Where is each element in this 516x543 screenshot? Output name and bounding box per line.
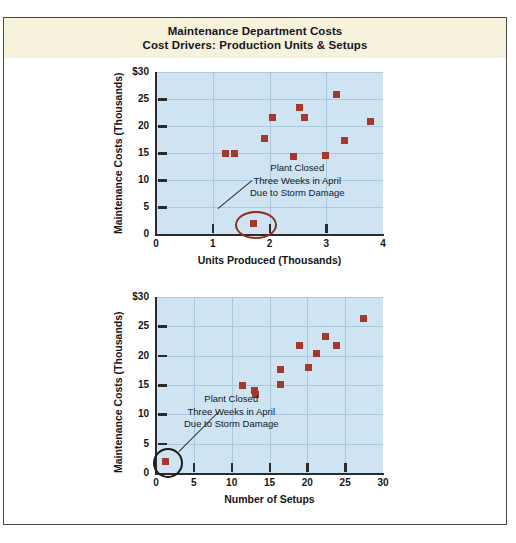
x-axis-tick [212, 224, 215, 233]
y-axis-tick [158, 206, 167, 209]
y-axis-tick [158, 355, 167, 358]
data-point [313, 350, 320, 357]
x-axis-tick-label: 1 [200, 238, 226, 249]
data-point [305, 364, 312, 371]
gridline-vertical [307, 297, 308, 473]
x-axis-tick-label: 20 [294, 477, 320, 488]
gridline-vertical [194, 297, 195, 473]
figure-frame: Maintenance Department Costs Cost Driver… [3, 17, 507, 525]
x-axis-tick-label: 5 [181, 477, 207, 488]
y-axis-tick [158, 179, 167, 182]
data-point [360, 315, 367, 322]
y-axis-tick [158, 152, 167, 155]
x-axis-tick-label: 0 [143, 477, 169, 488]
y-axis-title: Maintenance Costs (Thousands) [112, 72, 124, 234]
x-axis-tick [306, 463, 309, 472]
title-band: Maintenance Department Costs Cost Driver… [4, 18, 506, 58]
x-axis-line [155, 473, 384, 475]
gridline-vertical [345, 297, 346, 473]
y-axis-tick-label: $30 [115, 291, 149, 302]
plot-area [156, 72, 383, 234]
data-point [322, 333, 329, 340]
x-axis-tick-label: 0 [143, 238, 169, 249]
y-axis-tick [158, 125, 167, 128]
y-axis-tick [158, 325, 167, 328]
y-axis-line [155, 72, 157, 235]
y-axis-tick [158, 384, 167, 387]
gridline-vertical [270, 297, 271, 473]
data-point [290, 153, 297, 160]
chart-units-produced: 0510152025$3001234Maintenance Costs (Tho… [4, 58, 508, 273]
x-axis-tick [231, 463, 234, 472]
x-axis-tick-label: 30 [370, 477, 396, 488]
outlier-highlight-ellipse [235, 211, 277, 239]
outlier-highlight-ellipse [153, 448, 183, 478]
annotation-text: Plant ClosedThree Weeks in AprilDue to S… [184, 393, 279, 431]
chart-number-of-setups: 0510152025$30051015202530Maintenance Cos… [4, 283, 508, 518]
data-point [277, 381, 284, 388]
x-axis-tick-label: 3 [313, 238, 339, 249]
page-title-line2: Cost Drivers: Production Units & Setups [4, 39, 506, 51]
data-point [333, 91, 340, 98]
x-axis-tick [269, 463, 272, 472]
x-axis-tick-label: 15 [257, 477, 283, 488]
data-point [239, 382, 246, 389]
y-axis-tick [158, 98, 167, 101]
data-point [341, 137, 348, 144]
data-point [277, 366, 284, 373]
gridline-vertical [232, 297, 233, 473]
x-axis-tick [325, 224, 328, 233]
x-axis-tick-label: 25 [332, 477, 358, 488]
annotation-line-3: Due to Storm Damage [184, 418, 279, 429]
page-title-line1: Maintenance Department Costs [4, 25, 506, 37]
data-point [322, 152, 329, 159]
data-point [367, 118, 374, 125]
y-axis-line [155, 297, 157, 474]
annotation-line-2: Three Weeks in April [254, 175, 341, 186]
data-point [296, 342, 303, 349]
gridline-vertical [270, 72, 271, 234]
annotation-line-1: Plant Closed [270, 162, 324, 173]
y-axis-tick [158, 413, 167, 416]
x-axis-tick [193, 463, 196, 472]
data-point [222, 150, 229, 157]
gridline-vertical [213, 72, 214, 234]
y-axis-tick [158, 443, 167, 446]
x-axis-tick-label: 2 [257, 238, 283, 249]
x-axis-title: Units Produced (Thousands) [156, 254, 383, 266]
data-point [296, 104, 303, 111]
x-axis-title: Number of Setups [156, 493, 383, 505]
x-axis-tick-label: 4 [370, 238, 396, 249]
data-point [333, 342, 340, 349]
annotation-line-3: Due to Storm Damage [250, 187, 345, 198]
plot-area [156, 297, 383, 473]
annotation-line-2: Three Weeks in April [188, 406, 275, 417]
data-point [269, 114, 276, 121]
data-point [231, 150, 238, 157]
y-axis-title: Maintenance Costs (Thousands) [112, 311, 124, 473]
x-axis-tick-label: 10 [219, 477, 245, 488]
x-axis-tick [344, 463, 347, 472]
data-point [301, 114, 308, 121]
annotation-text: Plant ClosedThree Weeks in AprilDue to S… [250, 162, 345, 200]
data-point [261, 135, 268, 142]
annotation-line-1: Plant Closed [204, 393, 258, 404]
